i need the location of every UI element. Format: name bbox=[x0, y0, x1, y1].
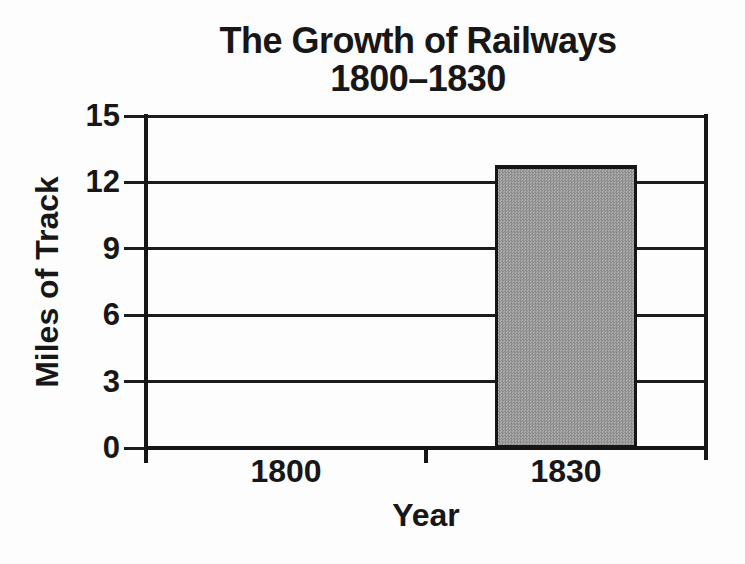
plot-area: 0369121518001830 bbox=[0, 0, 745, 564]
y-tick-label-0: 0 bbox=[32, 430, 120, 466]
y-tick-label-15: 15 bbox=[32, 98, 120, 134]
y-tick-mark-0 bbox=[124, 447, 146, 450]
x-tick-label-1800: 1800 bbox=[146, 453, 426, 489]
y-tick-mark-9 bbox=[124, 247, 146, 250]
x-tick-label-1830: 1830 bbox=[426, 453, 706, 489]
y-axis-line bbox=[144, 114, 148, 463]
y-tick-label-6: 6 bbox=[32, 297, 120, 333]
right-frame-line bbox=[704, 114, 708, 460]
y-tick-mark-12 bbox=[124, 181, 146, 184]
y-tick-mark-3 bbox=[124, 380, 146, 383]
y-tick-label-3: 3 bbox=[32, 364, 120, 400]
x-tick-mark-1 bbox=[424, 448, 428, 463]
y-tick-label-9: 9 bbox=[32, 231, 120, 267]
gridline-15 bbox=[146, 115, 706, 118]
x-axis-title: Year bbox=[326, 497, 526, 534]
y-tick-mark-6 bbox=[124, 314, 146, 317]
y-tick-label-12: 12 bbox=[32, 164, 120, 200]
bar-1830 bbox=[495, 165, 637, 448]
y-tick-mark-15 bbox=[124, 115, 146, 118]
chart-page: The Growth of Railways 1800–1830 Miles o… bbox=[0, 0, 745, 564]
